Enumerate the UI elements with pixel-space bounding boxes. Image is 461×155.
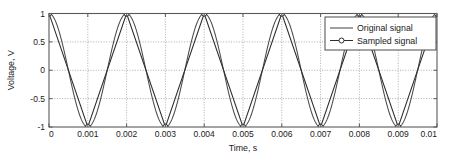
x-tick-label: 0.006 xyxy=(271,129,293,139)
x-tick-label: 0.008 xyxy=(349,129,371,139)
y-axis-title: Voltage, V xyxy=(6,50,16,90)
legend-label-original: Original signal xyxy=(357,23,413,33)
legend-circle-marker-icon xyxy=(339,38,344,43)
x-tick-label: 0.01 xyxy=(420,129,437,139)
x-tick-label: 0.001 xyxy=(77,129,99,139)
legend-label-sampled: Sampled signal xyxy=(357,36,417,46)
x-axis-title: Time, s xyxy=(229,143,258,153)
x-tick-label: 0.003 xyxy=(155,129,177,139)
x-tick-label: 0.007 xyxy=(310,129,332,139)
y-tick-label: 1 xyxy=(40,9,45,19)
y-tick-label: 0.5 xyxy=(33,37,45,47)
chart-figure: 00.0010.0020.0030.0040.0050.0060.0070.00… xyxy=(0,0,461,155)
y-axis-tick-labels: 10.50-0.5-1 xyxy=(30,9,45,133)
signal-plot: 00.0010.0020.0030.0040.0050.0060.0070.00… xyxy=(0,0,461,155)
y-tick-label: -1 xyxy=(37,122,45,132)
x-axis-tick-labels: 00.0010.0020.0030.0040.0050.0060.0070.00… xyxy=(49,129,437,139)
x-tick-label: 0.004 xyxy=(194,129,216,139)
x-tick-label: 0.009 xyxy=(388,129,410,139)
y-tick-label: -0.5 xyxy=(30,94,45,104)
y-tick-label: 0 xyxy=(40,65,45,75)
legend: Original signal Sampled signal xyxy=(325,17,436,50)
x-tick-label: 0 xyxy=(49,129,54,139)
x-tick-label: 0.002 xyxy=(116,129,138,139)
x-tick-label: 0.005 xyxy=(232,129,254,139)
